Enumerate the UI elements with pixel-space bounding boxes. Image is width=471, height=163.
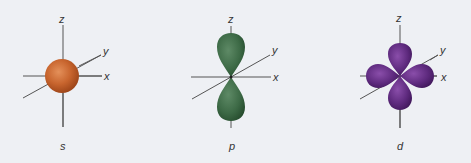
d-orbital: z y x d: [360, 12, 447, 152]
s-sphere: [45, 59, 79, 93]
orbital-label-p: p: [228, 140, 235, 152]
orbital-label-s: s: [60, 140, 66, 152]
z-axis-label: z: [395, 12, 402, 24]
p-orbital: z y x p: [191, 13, 279, 152]
orbital-diagram: z y x s z y x p z y x d: [0, 0, 471, 163]
orbital-label-d: d: [397, 140, 404, 152]
y-axis-label: y: [102, 45, 110, 57]
z-axis-label: z: [58, 13, 65, 25]
s-orbital: z y x s: [23, 13, 110, 152]
x-axis-label: x: [272, 71, 279, 83]
y-axis-label: y: [271, 44, 279, 56]
z-axis-label: z: [227, 13, 234, 25]
y-axis-label: y: [439, 44, 447, 56]
p-lobe-bottom: [217, 77, 245, 121]
x-axis-label: x: [440, 71, 447, 83]
x-axis-label: x: [103, 70, 110, 82]
p-lobe-top: [217, 33, 245, 77]
